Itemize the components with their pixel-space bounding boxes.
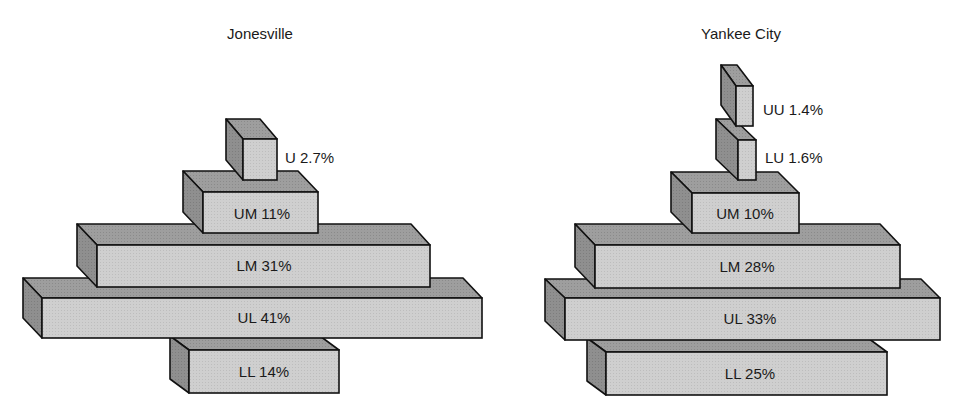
jonesville-bar-ll: LL 14% [170, 336, 339, 393]
yankee-label-ul: UL 33% [724, 310, 777, 327]
yankee-bar-lu: LU 1.6% [716, 119, 823, 180]
yankee-label-uu: UU 1.4% [763, 101, 823, 118]
yankee-label-ll: LL 25% [725, 365, 775, 382]
jonesville-label-ll: LL 14% [239, 363, 289, 380]
yankee-label-lu: LU 1.6% [765, 149, 823, 166]
jonesville-label-ul: UL 41% [238, 309, 291, 326]
yankee-bar-um: UM 10% [671, 172, 799, 233]
yankee-label-um: UM 10% [716, 205, 774, 222]
jonesville-label-u: U 2.7% [285, 149, 334, 166]
yankee-bar-ll: LL 25% [587, 338, 887, 395]
class-pyramids-figure: LL 14% UL 41% LM 31% UM 11% U 2.7% LL 25… [0, 0, 958, 418]
yankee-label-lm: LM 28% [719, 258, 774, 275]
jonesville-label-lm: LM 31% [236, 257, 291, 274]
jonesville-label-um: UM 11% [234, 205, 290, 222]
yankee-bar-uu: UU 1.4% [721, 65, 823, 126]
